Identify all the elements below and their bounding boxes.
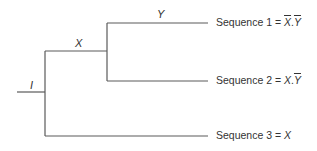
sequence-3-label: Sequence 3 = X [216,130,291,141]
sequence-2-x: X [284,74,291,86]
sequence-1-not-y: Y [294,16,301,28]
event-tree-diagram: I X Y Sequence 1 = X.Y Sequence 2 = X.Y … [0,0,317,151]
sequence-3-x: X [284,129,291,141]
sequence-1-prefix: Sequence 1 = [216,16,284,28]
sequence-3-prefix: Sequence 3 = [216,129,284,141]
sequence-2-label: Sequence 2 = X.Y [216,75,301,86]
branch-label-y: Y [157,9,164,20]
branch-label-i: I [30,80,33,91]
sequence-1-not-x: X [284,16,291,28]
branch-label-x: X [75,38,82,49]
sequence-1-label: Sequence 1 = X.Y [216,17,301,28]
sequence-2-prefix: Sequence 2 = [216,74,284,86]
sequence-2-not-y: Y [294,74,301,86]
